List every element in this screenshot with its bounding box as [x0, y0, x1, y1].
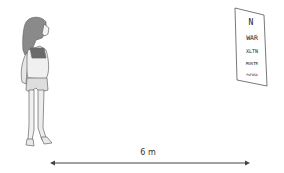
eye-chart-row-2: WAR — [246, 34, 258, 42]
eye-chart-row-4: MUSTR — [246, 61, 259, 66]
eye-chart-row-1: N — [249, 18, 254, 27]
child-figure-icon — [21, 17, 52, 146]
eye-chart: N WAR XLTN MUSTR PUFNSA — [235, 8, 267, 86]
distance-arrow — [50, 161, 250, 166]
eye-chart-row-5: PUFNSA — [246, 73, 258, 77]
eye-chart-row-3: XLTN — [246, 48, 258, 54]
distance-label: 6 m — [138, 148, 158, 157]
